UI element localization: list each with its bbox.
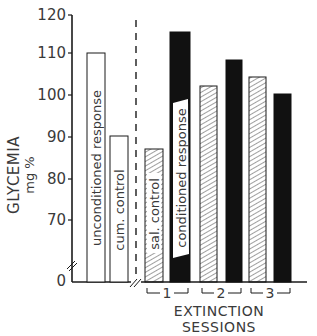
tick-120: 120 [37,6,66,24]
y-axis-unit: mg % [22,156,37,193]
tick-80: 80 [47,170,66,188]
bar-label-conditioned: conditioned response [174,108,189,248]
y-axis-label: GLYCEMIA [5,136,23,214]
bar-label-sal-control: sal. control [147,178,162,250]
y-axis [67,15,77,282]
tick-90: 90 [47,128,66,146]
tick-0: 0 [56,272,66,290]
glycemia-bar-chart: 120 110 100 90 80 70 0 GLYCEMIA mg % unc… [0,0,317,336]
bar-solid-session-2 [226,60,242,282]
bar-hatched-session-2 [200,86,217,282]
session-3-label: 3 [266,285,275,301]
bar-label-cum-control: cum. control [112,169,127,250]
bar-solid-session-3 [274,94,291,282]
tick-70: 70 [47,211,66,229]
y-tick-labels: 120 110 100 90 80 70 0 [37,6,66,290]
x-axis-label-line-1: EXTINCTION [174,303,264,319]
x-axis-label-line-2: SESSIONS [182,319,256,335]
session-1-label: 1 [163,285,172,301]
tick-110: 110 [37,44,66,62]
session-2-label: 2 [217,285,226,301]
bar-label-unconditioned: unconditioned response [89,90,104,246]
bar-hatched-session-3 [249,77,266,282]
tick-100: 100 [37,86,66,104]
